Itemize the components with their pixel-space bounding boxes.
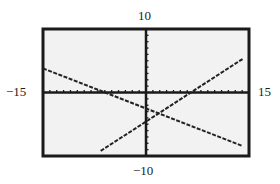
graph-screen [0, 0, 280, 184]
